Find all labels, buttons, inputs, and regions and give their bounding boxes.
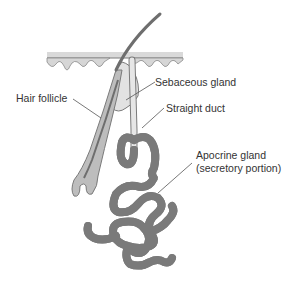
label-sebaceous-gland: Sebaceous gland — [155, 76, 236, 88]
hair-follicle-leader — [73, 99, 101, 118]
apocrine-gland-leader — [158, 163, 192, 193]
label-straight-duct: Straight duct — [166, 102, 225, 114]
label-apocrine-gland: Apocrine gland — [196, 149, 266, 161]
straight-duct-leader — [142, 108, 164, 128]
label-apocrine-secretory: (secretory portion) — [196, 162, 281, 174]
skin-epidermis — [47, 52, 183, 70]
label-hair-follicle: Hair follicle — [16, 92, 67, 104]
diagram-canvas — [0, 0, 297, 284]
